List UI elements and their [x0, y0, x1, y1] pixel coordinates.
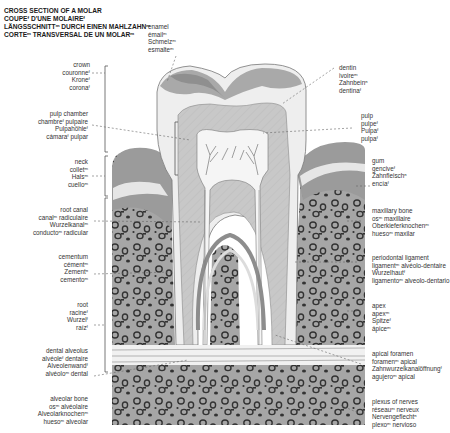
label-enamel: enamel émailᵐ Schmelzᵐ esmalteᵐ [148, 23, 176, 53]
label-root-canal: root canal canalᵐ radiculaire Wurzelkana… [33, 206, 88, 236]
label-cementum: cementum cémentᵐ Zementⁿ cementoᵐ [59, 253, 88, 283]
label-gum: gum genciveᶠ Zahnfleischⁿ encíaᶠ [372, 157, 407, 187]
title-french: COUPEᶠ D'UNE MOLAIREᶠ [4, 15, 150, 23]
label-plexus-of-nerves: plexus of nerves réseauᵐ nerveux Nerveng… [372, 398, 419, 428]
label-crown: crown couronneᶠ Kroneᶠ coronaᶠ [62, 61, 90, 91]
label-apex: apex apexᵐ Spitzeᶠ ápiceᵐ [372, 302, 391, 332]
diagram-title: CROSS SECTION OF A MOLAR COUPEᶠ D'UNE MO… [4, 7, 150, 39]
label-pulp-chamber: pulp chamber chambreᶠ pulpaire Pulpahöhl… [38, 110, 88, 140]
title-spanish: CORTEᵐ TRANSVERSAL DE UN MOLARᵐ [4, 31, 150, 39]
label-pulp: pulp pulpeᶠ Pulpaᶠ pulpaᶠ [361, 112, 379, 142]
label-maxillary-bone: maxillary bone osᵐ maxillaire Oberkiefer… [372, 207, 429, 237]
label-dentin: dentin ivoireᵐ Zahnbeinⁿ dentinaᶠ [339, 64, 368, 94]
label-alveolar-bone: alveolar bone osᵐ alvéolaire Alveolarkno… [38, 395, 88, 425]
title-german: LÄNGSSCHNITTᵐ DURCH EINEN MAHLZAHNᵐ [4, 23, 150, 31]
label-root: root racineᶠ Wurzelᶠ raízᶠ [67, 301, 88, 331]
label-periodontal-ligament: periodontal ligament ligamentᵐ alvéolo-d… [372, 254, 449, 284]
label-apical-foramen: apical foramen foramenᵐ apical Zahnwurze… [372, 350, 442, 380]
title-english: CROSS SECTION OF A MOLAR [4, 7, 150, 15]
label-dental-alveolus: dental alveolus alvéoleᶠ dentaire Alveol… [42, 347, 88, 377]
label-neck: neck colletᵐ Halsᵐ cuelloᵐ [68, 158, 88, 188]
nerve-plexus [112, 345, 365, 365]
